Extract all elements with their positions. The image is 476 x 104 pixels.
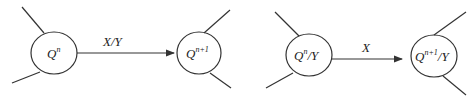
left-diagram: Qn X/Y Qn+1 <box>12 7 231 88</box>
outgoing-edge-top <box>434 12 466 35</box>
incoming-edge-top <box>275 12 299 36</box>
outgoing-edge-bottom <box>443 76 466 95</box>
edge-label-xy: X/Y <box>102 34 124 49</box>
state-transition-diagrams: Qn X/Y Qn+1 Qn/Y X Qn+1/Y <box>0 0 476 104</box>
incoming-edge-top <box>22 7 44 33</box>
incoming-edge-bottom <box>12 72 40 83</box>
state-label-qn-y: Qn/Y <box>294 47 320 63</box>
edge-label-x: X <box>361 40 371 55</box>
right-diagram: Qn/Y X Qn+1/Y <box>266 12 466 95</box>
outgoing-edge-top <box>204 10 230 33</box>
outgoing-edge-bottom <box>210 73 231 88</box>
incoming-edge-bottom <box>266 73 293 88</box>
